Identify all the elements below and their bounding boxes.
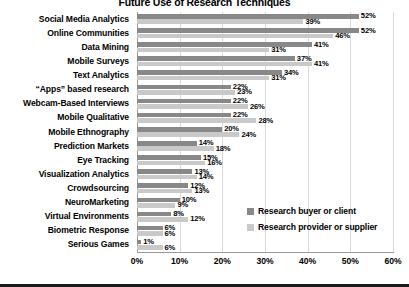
bar-provider	[137, 203, 175, 208]
legend-swatch-icon	[247, 224, 254, 231]
bar-value-label: 6%	[165, 244, 176, 252]
bar-value-label: 6%	[165, 230, 176, 238]
bar-buyer	[137, 127, 222, 132]
bar-buyer	[137, 113, 231, 118]
category-axis-labels: Social Media AnalyticsOnline Communities…	[0, 12, 133, 252]
category-label: Biometric Response	[48, 225, 129, 235]
x-tick-label: 0%	[131, 256, 143, 266]
bar-value-label: 31%	[271, 74, 286, 82]
bar-provider	[137, 62, 312, 67]
legend-swatch-icon	[247, 208, 254, 215]
bar-value-label: 26%	[250, 103, 265, 111]
bar-value-label: 13%	[194, 187, 209, 195]
bar-buyer	[137, 183, 188, 188]
bar-buyer	[137, 14, 359, 19]
category-label: “Apps” based research	[36, 84, 129, 94]
category-label: NeuroMarketing	[65, 197, 129, 207]
bar-provider	[137, 90, 235, 95]
bar-provider	[137, 146, 214, 151]
bar-provider	[137, 175, 197, 180]
legend-item[interactable]: Research buyer or client	[247, 204, 377, 218]
bar-provider	[137, 132, 239, 137]
category-label: Visualization Analytics	[39, 169, 129, 179]
bar-buyer	[137, 155, 201, 160]
x-tick-label: 20%	[214, 256, 231, 266]
category-label: Mobile Ethnography	[48, 127, 129, 137]
bar-value-label: 39%	[305, 18, 320, 26]
category-label: Data Mining	[81, 42, 129, 52]
bar-buyer	[137, 70, 282, 75]
chart-container: Future Use of Research Techniques Social…	[0, 0, 409, 287]
bar-value-label: 23%	[237, 88, 252, 96]
bar-provider	[137, 34, 333, 39]
category-label: Crowdsourcing	[67, 183, 129, 193]
legend-label: Research provider or supplier	[258, 222, 377, 232]
bar-provider	[137, 231, 163, 236]
bar-buyer	[137, 212, 171, 217]
bar-value-label: 9%	[177, 201, 188, 209]
category-label: Virtual Environments	[45, 211, 129, 221]
bar-value-label: 14%	[199, 173, 214, 181]
x-tick-label: 50%	[342, 256, 359, 266]
bar-value-label: 12%	[190, 215, 205, 223]
legend-label: Research buyer or client	[258, 206, 356, 216]
bar-provider	[137, 104, 248, 109]
category-label: Online Communities	[47, 28, 129, 38]
bar-buyer	[137, 28, 359, 33]
bar-value-label: 16%	[207, 159, 222, 167]
bar-buyer	[137, 141, 197, 146]
bar-value-label: 34%	[284, 69, 299, 77]
bar-buyer	[137, 99, 231, 104]
x-tick-label: 10%	[171, 256, 188, 266]
category-label: Webcam-Based Interviews	[23, 98, 129, 108]
category-label: Text Analytics	[73, 70, 129, 80]
bar-provider	[137, 118, 256, 123]
chart-title: Future Use of Research Techniques	[0, 0, 409, 8]
bar-value-label: 41%	[314, 60, 329, 68]
x-tick-label: 60%	[384, 256, 401, 266]
bar-buyer	[137, 198, 180, 203]
category-label: Serious Games	[68, 239, 129, 249]
x-axis-line	[137, 252, 394, 253]
chart-legend: Research buyer or clientResearch provide…	[247, 204, 377, 236]
category-label: Mobile Surveys	[67, 56, 129, 66]
bar-provider	[137, 19, 303, 24]
category-label: Social Media Analytics	[39, 14, 129, 24]
legend-item[interactable]: Research provider or supplier	[247, 220, 377, 234]
x-tick-label: 30%	[256, 256, 273, 266]
gridline-60pct	[393, 12, 394, 252]
x-tick-label: 40%	[299, 256, 316, 266]
bar-buyer	[137, 56, 295, 61]
bar-buyer	[137, 226, 163, 231]
bar-value-label: 24%	[241, 131, 256, 139]
bar-value-label: 52%	[361, 27, 376, 35]
category-label: Eye Tracking	[77, 155, 129, 165]
bar-value-label: 18%	[216, 145, 231, 153]
bar-buyer	[137, 85, 231, 90]
bar-value-label: 31%	[271, 46, 286, 54]
category-label: Prediction Markets	[54, 141, 129, 151]
bar-provider	[137, 245, 163, 250]
bar-provider	[137, 189, 192, 194]
category-label: Mobile Qualitative	[57, 112, 129, 122]
bar-provider	[137, 161, 205, 166]
bar-provider	[137, 48, 269, 53]
bar-buyer	[137, 240, 141, 245]
bar-provider	[137, 76, 269, 81]
bar-value-label: 41%	[314, 41, 329, 49]
bar-provider	[137, 217, 188, 222]
bar-value-label: 28%	[258, 117, 273, 125]
bar-buyer	[137, 169, 192, 174]
bar-value-label: 52%	[361, 12, 376, 20]
bar-value-label: 46%	[335, 32, 350, 40]
